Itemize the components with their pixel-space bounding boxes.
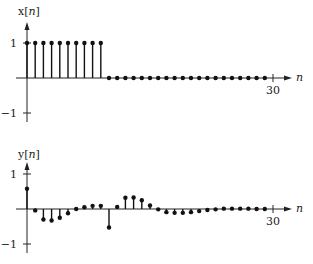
stem-marker <box>41 41 45 45</box>
y-tick-label: 1 <box>10 37 17 50</box>
stem-marker <box>107 76 111 80</box>
stem-marker <box>140 76 144 80</box>
stem-marker <box>82 205 86 209</box>
stem-marker <box>131 76 135 80</box>
stem-marker <box>58 41 62 45</box>
stem-marker <box>213 207 217 211</box>
stem-marker <box>123 76 127 80</box>
stem-marker <box>115 76 119 80</box>
stem-marker <box>148 76 152 80</box>
stem-marker <box>230 206 234 210</box>
stem-marker <box>58 216 62 220</box>
stem-marker <box>33 208 37 212</box>
stem-marker <box>123 196 127 200</box>
stem-marker <box>189 210 193 214</box>
x-axis-label: n <box>296 202 303 215</box>
stem-marker <box>189 76 193 80</box>
stem-marker <box>41 217 45 221</box>
stem-marker <box>172 76 176 80</box>
y-axis-arrow-icon <box>25 162 30 170</box>
stem-marker <box>25 41 29 45</box>
stem-marker <box>49 41 53 45</box>
stem-marker <box>238 76 242 80</box>
stem-marker <box>181 76 185 80</box>
stem-marker <box>49 218 53 222</box>
stem-marker <box>246 206 250 210</box>
y-axis-label: x[n] <box>18 5 40 18</box>
stem-marker <box>172 211 176 215</box>
x-axis-label: n <box>296 71 303 84</box>
stem-marker <box>230 76 234 80</box>
x-tick-label: 30 <box>266 215 280 228</box>
stem-marker <box>197 76 201 80</box>
plot-x-n: nx[n]1−130 <box>1 5 303 122</box>
stem-marker <box>164 210 168 214</box>
stem-marker <box>140 198 144 202</box>
stem-marker <box>115 205 119 209</box>
stem-marker <box>33 41 37 45</box>
stem-plots-figure: nx[n]1−130 ny[n]1−130 <box>0 0 313 264</box>
stem-marker <box>74 41 78 45</box>
stem-marker <box>25 187 29 191</box>
stem-marker <box>156 76 160 80</box>
stem-marker <box>99 41 103 45</box>
y-axis-label: y[n] <box>17 148 40 161</box>
stem-marker <box>246 76 250 80</box>
stem-marker <box>90 204 94 208</box>
stem-marker <box>156 207 160 211</box>
x-axis-arrow-icon <box>284 76 292 81</box>
stem-marker <box>82 41 86 45</box>
y-tick-label: 1 <box>10 168 17 181</box>
y-axis-arrow-icon <box>25 22 30 30</box>
y-tick-label: −1 <box>1 107 17 120</box>
stem-marker <box>205 76 209 80</box>
stem-marker <box>254 207 258 211</box>
stem-marker <box>222 76 226 80</box>
stem-marker <box>66 211 70 215</box>
stem-marker <box>131 195 135 199</box>
x-tick-label: 30 <box>266 84 280 97</box>
stem-marker <box>99 204 103 208</box>
stem-marker <box>263 76 267 80</box>
stem-marker <box>197 209 201 213</box>
x-axis-arrow-icon <box>284 207 292 212</box>
stem-marker <box>164 76 168 80</box>
y-tick-label: −1 <box>1 238 17 251</box>
stem-marker <box>213 76 217 80</box>
stem-marker <box>148 203 152 207</box>
stem-marker <box>66 41 70 45</box>
stem-marker <box>254 76 258 80</box>
stem-marker <box>181 211 185 215</box>
stem-marker <box>222 206 226 210</box>
stem-marker <box>263 207 267 211</box>
stem-marker <box>74 207 78 211</box>
plot-y-n: ny[n]1−130 <box>1 148 303 253</box>
stem-marker <box>238 206 242 210</box>
stem-marker <box>205 208 209 212</box>
stem-marker <box>107 225 111 229</box>
stem-marker <box>90 41 94 45</box>
